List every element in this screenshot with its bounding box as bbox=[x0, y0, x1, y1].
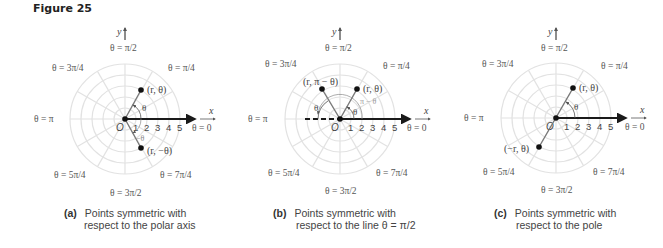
point-r-theta bbox=[354, 86, 360, 92]
point-label: (r, π − θ) bbox=[303, 76, 338, 88]
pole-point bbox=[122, 116, 128, 122]
point-label: (−r, θ) bbox=[504, 143, 529, 155]
origin-label: O bbox=[331, 122, 339, 133]
svg-text:θ = 0: θ = 0 bbox=[407, 123, 427, 133]
point-label: (r, θ) bbox=[363, 83, 382, 95]
caption-a: (a)Points symmetric with respect to the … bbox=[64, 207, 195, 231]
svg-text:θ = 5π/4: θ = 5π/4 bbox=[54, 170, 86, 180]
x-axis-label: x bbox=[208, 105, 214, 116]
caption-c: (c)Points symmetric with respect to the … bbox=[494, 207, 616, 231]
svg-text:θ = π/2: θ = π/2 bbox=[325, 43, 352, 53]
origin-label: O bbox=[116, 122, 124, 133]
svg-text:θ = 0: θ = 0 bbox=[625, 122, 645, 132]
x-axis-label: x bbox=[639, 104, 645, 115]
point-neg-r-theta bbox=[536, 144, 542, 150]
angle-mark-theta-left: θ bbox=[314, 103, 318, 113]
svg-text:5: 5 bbox=[177, 122, 182, 133]
x-axis-label: x bbox=[423, 105, 429, 116]
point-label: (r, θ) bbox=[579, 82, 598, 94]
svg-text:2: 2 bbox=[575, 121, 580, 132]
svg-text:4: 4 bbox=[597, 121, 602, 132]
svg-text:2: 2 bbox=[359, 122, 364, 133]
svg-text:4: 4 bbox=[381, 122, 386, 133]
svg-text:θ = π/4: θ = π/4 bbox=[383, 61, 410, 71]
y-axis-label: y bbox=[547, 26, 553, 37]
svg-text:θ = 5π/4: θ = 5π/4 bbox=[483, 167, 515, 177]
svg-text:θ = 5π/4: θ = 5π/4 bbox=[268, 168, 300, 178]
y-axis-label: y bbox=[116, 26, 122, 37]
angle-mark-theta: θ bbox=[142, 103, 146, 113]
pole-point bbox=[553, 115, 559, 121]
svg-text:1: 1 bbox=[564, 121, 569, 132]
svg-text:θ = 7π/4: θ = 7π/4 bbox=[376, 168, 408, 178]
svg-text:5: 5 bbox=[392, 122, 397, 133]
svg-text:θ = 3π/4: θ = 3π/4 bbox=[265, 59, 297, 69]
point-r-pi-minus-theta bbox=[319, 86, 325, 92]
point-r-neg-theta bbox=[138, 145, 144, 151]
svg-text:θ = 7π/4: θ = 7π/4 bbox=[160, 170, 192, 180]
svg-text:4: 4 bbox=[166, 122, 171, 133]
svg-text:5: 5 bbox=[608, 121, 613, 132]
svg-text:3: 3 bbox=[155, 122, 160, 133]
svg-text:θ = 0: θ = 0 bbox=[192, 123, 212, 133]
svg-text:θ = 3π/4: θ = 3π/4 bbox=[52, 63, 84, 73]
svg-text:θ = π/4: θ = π/4 bbox=[601, 61, 628, 71]
svg-text:θ = π/2: θ = π/2 bbox=[110, 43, 137, 53]
svg-text:θ = π/2: θ = π/2 bbox=[541, 43, 568, 53]
angle-mark-neg-theta: −θ bbox=[136, 134, 145, 143]
svg-text:θ = π/4: θ = π/4 bbox=[168, 63, 195, 73]
svg-text:θ = π: θ = π bbox=[464, 113, 484, 123]
svg-text:θ = 3π/2: θ = 3π/2 bbox=[325, 186, 357, 196]
point-label: (r, −θ) bbox=[147, 145, 172, 157]
svg-text:θ = π: θ = π bbox=[34, 114, 54, 124]
svg-text:θ = 3π/2: θ = 3π/2 bbox=[110, 188, 142, 198]
angle-mark-theta: θ bbox=[353, 107, 357, 117]
svg-text:1: 1 bbox=[348, 122, 353, 133]
point-r-theta bbox=[570, 85, 576, 91]
svg-text:θ = 7π/4: θ = 7π/4 bbox=[593, 167, 625, 177]
svg-text:θ = 3π/4: θ = 3π/4 bbox=[482, 59, 514, 69]
svg-text:3: 3 bbox=[370, 122, 375, 133]
point-r-theta bbox=[138, 87, 144, 93]
svg-text:2: 2 bbox=[144, 122, 149, 133]
y-axis-label: y bbox=[331, 26, 337, 37]
panel-label: (b) bbox=[273, 207, 286, 219]
panel-label: (a) bbox=[64, 207, 77, 219]
panel-label: (c) bbox=[494, 207, 507, 219]
svg-text:θ = π: θ = π bbox=[248, 114, 268, 124]
point-label: (r, θ) bbox=[147, 84, 166, 96]
angle-mark-theta: θ bbox=[574, 102, 578, 112]
svg-text:3: 3 bbox=[586, 121, 591, 132]
angle-mark-pi-minus-theta: π − θ bbox=[360, 97, 377, 106]
svg-text:θ = 3π/2: θ = 3π/2 bbox=[541, 185, 573, 195]
pole-point bbox=[337, 116, 343, 122]
caption-b: (b)Points symmetric with respect to the … bbox=[273, 207, 416, 231]
